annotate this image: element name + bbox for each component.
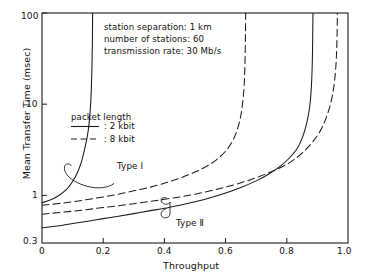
y-axis-title: Mean Transfer Time (msec) bbox=[21, 44, 32, 184]
y-axis-ticks bbox=[42, 13, 47, 195]
legend-sample-lines bbox=[71, 127, 99, 140]
type-1-leader bbox=[64, 164, 114, 188]
legend-label-8kbit: : 8 kbit bbox=[104, 134, 135, 144]
y-tick-label: 100 bbox=[21, 11, 38, 21]
y-tick-label: 10 bbox=[26, 99, 38, 109]
legend-label-2kbit: : 2 kbit bbox=[104, 121, 135, 131]
figure-root: Mean Transfer Time (msec) Throughput sta… bbox=[0, 0, 367, 277]
y-tick-label: 1 bbox=[32, 190, 38, 200]
y-tick-label: 0.3 bbox=[23, 236, 38, 246]
x-tick-label: 1.0 bbox=[337, 246, 352, 256]
x-tick-label: 0.2 bbox=[96, 246, 111, 256]
x-tick-label: 0.4 bbox=[157, 246, 172, 256]
annotation-number-of-stations: number of stations: 60 bbox=[104, 34, 204, 44]
x-axis-ticks bbox=[103, 238, 287, 243]
x-tick-label: 0.6 bbox=[218, 246, 233, 256]
curve-type-i-2-kbit bbox=[42, 13, 93, 203]
annotation-station-separation: station separation: 1 km bbox=[104, 22, 212, 32]
curve-label-type-1: Type I bbox=[117, 161, 143, 171]
x-axis-title: Throughput bbox=[163, 260, 219, 271]
annotation-transmission-rate: transmission rate: 30 Mb/s bbox=[104, 46, 221, 56]
curve-label-type-2: Type Ⅱ bbox=[176, 218, 204, 228]
x-tick-label: 0.8 bbox=[279, 246, 294, 256]
x-tick-label: 0 bbox=[39, 246, 45, 256]
